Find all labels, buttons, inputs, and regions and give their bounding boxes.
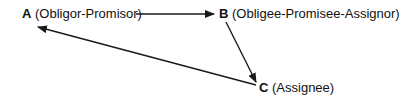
edge-b-to-c-arrow: [226, 22, 256, 82]
node-c-assignee: C (Assignee): [259, 80, 334, 95]
node-c-role: (Assignee): [272, 80, 334, 95]
node-a-obligor-promisor: A (Obligor-Promisor): [22, 6, 142, 21]
node-b-letter: B: [219, 6, 228, 21]
node-a-letter: A: [22, 6, 31, 21]
node-a-role: (Obligor-Promisor): [35, 6, 142, 21]
node-b-role: (Obligee-Promisee-Assignor): [232, 6, 400, 21]
node-b-obligee-promisee-assignor: B (Obligee-Promisee-Assignor): [219, 6, 400, 21]
node-c-letter: C: [259, 80, 268, 95]
edge-c-to-a-arrow: [38, 27, 256, 85]
